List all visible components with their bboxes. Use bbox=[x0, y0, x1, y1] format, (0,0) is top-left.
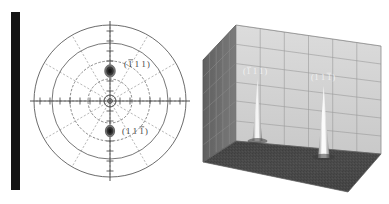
svg-text:1 1 1: 1 1 1 bbox=[315, 73, 332, 82]
svg-text:1 1 1: 1 1 1 bbox=[247, 67, 264, 76]
svg-text:1 1 1: 1 1 1 bbox=[126, 126, 144, 136]
vertical-black-scale-bar bbox=[11, 12, 20, 190]
svg-text:): ) bbox=[145, 126, 148, 136]
surface-panel: ( 1 1 1 ) ( 1 1 1 ) bbox=[195, 0, 389, 204]
polar-axes bbox=[30, 21, 190, 181]
reflection-lower-label-text: ( bbox=[122, 126, 125, 136]
reflection-upper-label: ( 1 1 1 ) bbox=[124, 59, 150, 69]
surface-peak-right-label: ( 1 1 1 ) bbox=[311, 73, 336, 82]
svg-text:1 1 1: 1 1 1 bbox=[128, 59, 146, 69]
surface-plot: ( 1 1 1 ) ( 1 1 1 ) bbox=[195, 0, 389, 204]
pole-figure-plot: ( 1 1 1 ) ( 1 1 1 ) bbox=[26, 8, 195, 196]
reflection-lower-peak bbox=[104, 124, 116, 138]
svg-text:): ) bbox=[265, 67, 268, 76]
reflection-upper-label-text: ( bbox=[124, 59, 127, 69]
reflection-lower-label: ( 1 1 1 ) bbox=[122, 126, 148, 136]
reflection-upper-peak bbox=[104, 64, 117, 79]
left-back-wall bbox=[203, 25, 236, 162]
figure-root: ( 1 1 1 ) ( 1 1 1 ) bbox=[0, 0, 389, 204]
surface-peak-left-label: ( 1 1 1 ) bbox=[243, 67, 268, 76]
svg-text:): ) bbox=[147, 59, 150, 69]
polar-panel: ( 1 1 1 ) ( 1 1 1 ) bbox=[0, 0, 195, 204]
svg-text:): ) bbox=[333, 73, 336, 82]
